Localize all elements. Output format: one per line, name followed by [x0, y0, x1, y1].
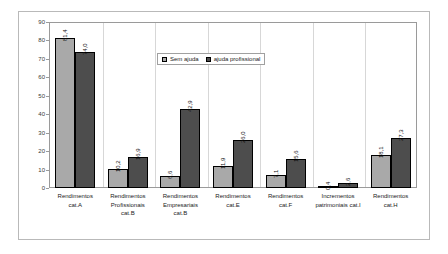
x-axis-category-label-line: cat.E [207, 201, 260, 210]
legend-item-sem-ajuda: Sem ajuda [162, 56, 199, 62]
legend-item-label: Sem ajuda [170, 56, 199, 62]
x-axis-category-label: RendimentosProfissionaiscat.B [102, 192, 155, 218]
chart-legend: Sem ajuda ajuda profissional [157, 53, 265, 65]
legend-item-ajuda-profissional: ajuda profissional [206, 56, 261, 62]
legend-item-label: ajuda profissional [214, 56, 261, 62]
y-axis-tick-label: 70 [38, 56, 45, 62]
x-axis-category-label-line: cat.H [364, 201, 417, 210]
y-axis-tick-label: 40 [38, 111, 45, 117]
x-axis-category-label-line: Rendimentos [154, 192, 207, 201]
x-axis-category-label-line: Rendimentos [364, 192, 417, 201]
x-axis-category-label-line: cat.A [49, 201, 102, 210]
x-axis-category-label-line: Profissionais [102, 201, 155, 210]
x-axis-category-label-line: patrimoniais cat.I [312, 201, 365, 210]
x-axis-category-label: RendimentosEmpresariaiscat.B [154, 192, 207, 218]
x-axis-category-label: Rendimentoscat.H [364, 192, 417, 209]
x-axis-category-label: Rendimentoscat.A [49, 192, 102, 209]
x-axis-category-label-line: Empresariais [154, 201, 207, 210]
y-axis-tick-mark [46, 188, 49, 189]
x-axis-category-label-line: Rendimentos [259, 192, 312, 201]
legend-swatch-icon [162, 57, 167, 62]
y-axis-tick-label: 20 [38, 148, 45, 154]
x-axis-category-label-line: cat.B [102, 209, 155, 218]
y-axis-tick-label: 10 [38, 167, 45, 173]
plot-area [49, 22, 417, 188]
x-axis-category-label-line: cat.F [259, 201, 312, 210]
x-axis-category-label-line: Rendimentos [49, 192, 102, 201]
x-axis-category-label: Rendimentoscat.E [207, 192, 260, 209]
x-axis-labels: Rendimentoscat.ARendimentosProfissionais… [49, 192, 417, 236]
x-axis-category-label: Incrementospatrimoniais cat.I [312, 192, 365, 209]
chart-frame: 0102030405060708090 81,474,010,216,96,64… [18, 11, 430, 240]
y-axis-tick-label: 80 [38, 37, 45, 43]
x-axis-category-label-line: cat.B [154, 209, 207, 218]
y-axis: 0102030405060708090 [19, 22, 49, 188]
gridline-vertical [103, 23, 104, 187]
y-axis-tick-label: 30 [38, 130, 45, 136]
gridline-vertical [365, 23, 366, 187]
y-axis-tick-label: 60 [38, 74, 45, 80]
gridline-vertical [208, 23, 209, 187]
x-axis-category-label-line: Rendimentos [207, 192, 260, 201]
y-axis-tick-label: 50 [38, 93, 45, 99]
gridline-vertical [155, 23, 156, 187]
x-axis-category-label: Rendimentoscat.F [259, 192, 312, 209]
gridline-vertical [260, 23, 261, 187]
y-axis-tick-label: 90 [38, 19, 45, 25]
x-axis-category-label-line: Rendimentos [102, 192, 155, 201]
y-axis-tick-label: 0 [42, 185, 45, 191]
legend-swatch-icon [206, 57, 211, 62]
x-axis-category-label-line: Incrementos [312, 192, 365, 201]
gridline-vertical [313, 23, 314, 187]
